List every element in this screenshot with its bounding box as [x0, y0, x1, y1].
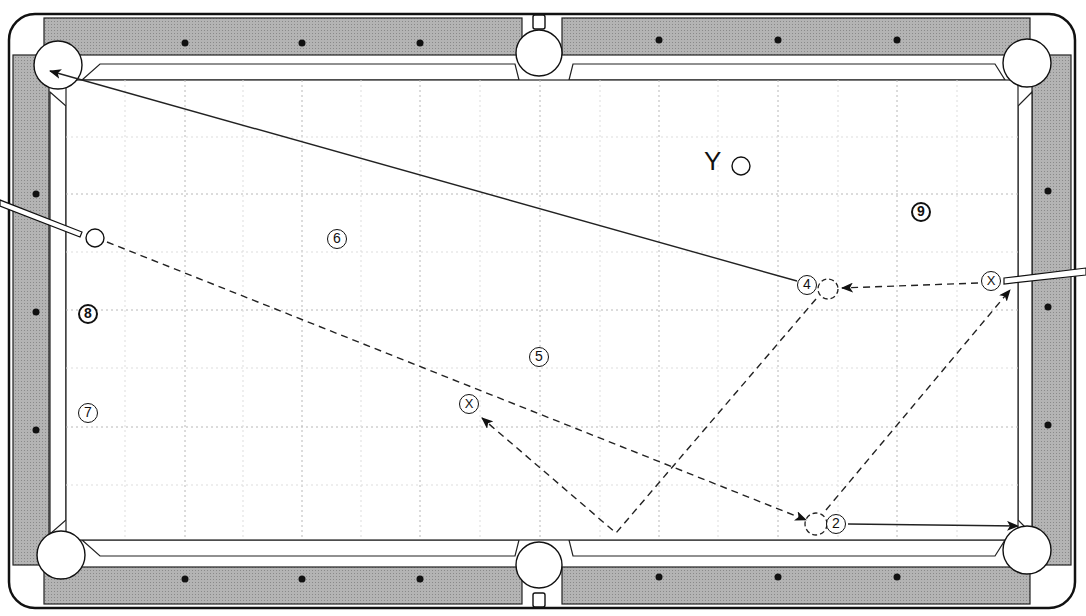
pocket-top-center [516, 30, 562, 76]
ball-8: 8 [78, 304, 98, 324]
top-rail-left [44, 18, 522, 55]
ball-6: 6 [327, 229, 347, 249]
y-position-label: Y [704, 146, 721, 177]
bottom-rail-right [562, 567, 1030, 604]
pocket-bottom-left [37, 531, 85, 579]
pool-table-svg [0, 0, 1086, 616]
ball-9: 9 [911, 202, 931, 222]
pocket-bottom-center [516, 542, 562, 588]
ball-7: 7 [78, 403, 98, 423]
top-rail-right [562, 18, 1030, 55]
ball-5: 5 [529, 347, 549, 367]
left-rail [13, 55, 49, 565]
ball-x-center: X [459, 394, 479, 414]
ball-2: 2 [826, 514, 846, 534]
ball-4: 4 [797, 275, 817, 295]
pocket-top-left [34, 41, 82, 89]
pocket-top-right [1003, 39, 1051, 87]
cue-ball-y [732, 157, 750, 175]
right-rail [1032, 55, 1071, 565]
table-frame [9, 14, 1075, 608]
cue-ball-left [86, 229, 104, 247]
pocket-bottom-right [1003, 526, 1051, 574]
bottom-rail-left [44, 567, 522, 604]
pool-table-diagram: Y 2 4 5 6 7 8 9 X X [0, 0, 1086, 616]
ball-x-right: X [981, 271, 1001, 291]
